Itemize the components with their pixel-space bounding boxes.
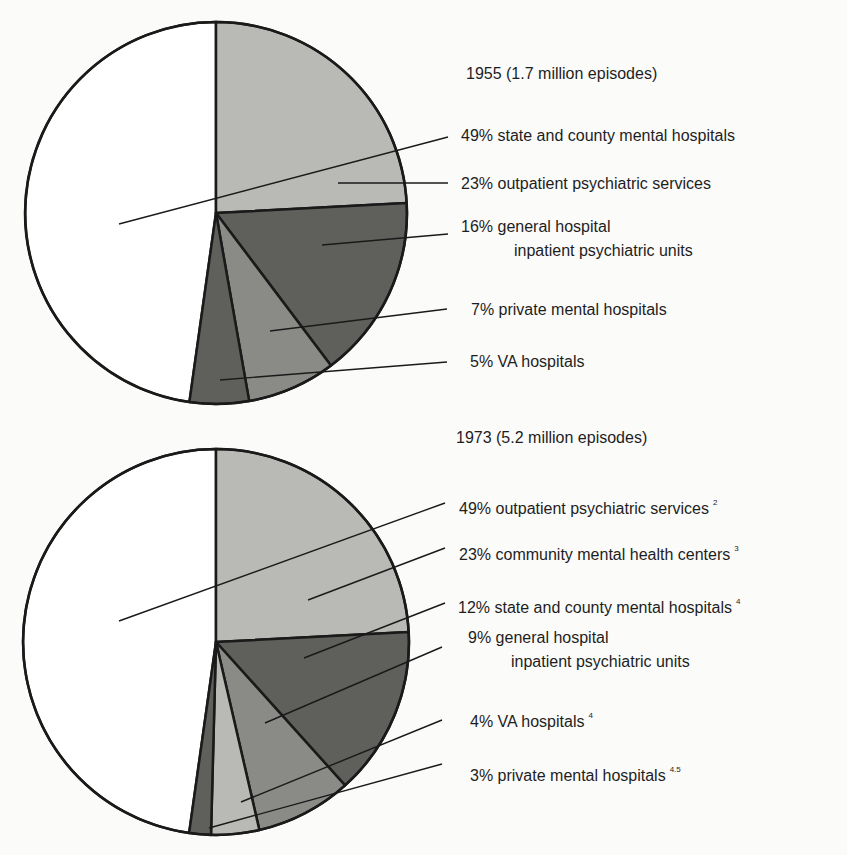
legend-text: general hospital bbox=[496, 629, 609, 646]
slice-1955-outpatient bbox=[216, 22, 407, 213]
legend-pct: 12% bbox=[458, 599, 490, 616]
slice-1955-state-county bbox=[25, 22, 216, 402]
legend-text: outpatient psychiatric services bbox=[497, 175, 710, 192]
legend-text: outpatient psychiatric services bbox=[495, 500, 708, 517]
pie-1955 bbox=[25, 22, 407, 404]
legend-text: community mental health centers bbox=[495, 546, 730, 563]
legend-pct: 49% bbox=[461, 127, 493, 144]
legend-label-1973-cmhc: 23% community mental health centers3 bbox=[459, 539, 739, 565]
pie-1973 bbox=[23, 449, 409, 835]
slice-1973-cmhc bbox=[216, 449, 409, 642]
legend-text: VA hospitals bbox=[498, 713, 585, 730]
legend-label-1955-va: 5% VA hospitals bbox=[470, 352, 584, 372]
footnote-marker: 4.5 bbox=[670, 765, 681, 774]
legend-pct: 23% bbox=[459, 546, 491, 563]
legend-label-1973-private: 3% private mental hospitals4.5 bbox=[470, 760, 681, 786]
legend-pct: 7% bbox=[471, 301, 494, 318]
legend-pct: 16% bbox=[461, 218, 493, 235]
legend-label-1955-state-county: 49% state and county mental hospitals bbox=[461, 126, 735, 146]
legend-pct: 49% bbox=[459, 500, 491, 517]
legend-label-1973-outpatient: 49% outpatient psychiatric services2 bbox=[459, 493, 717, 519]
chart-title-1973: 1973 (5.2 million episodes) bbox=[456, 428, 647, 448]
legend-text: VA hospitals bbox=[498, 353, 585, 370]
legend-text: private mental hospitals bbox=[498, 767, 666, 784]
legend-label-1973-state-county: 12% state and county mental hospitals4 bbox=[458, 592, 740, 618]
legend-pct: 9% bbox=[468, 629, 491, 646]
legend-pct: 5% bbox=[470, 353, 493, 370]
legend-text: private mental hospitals bbox=[499, 301, 667, 318]
slice-1973-outpatient bbox=[23, 449, 216, 833]
legend-text: state and county mental hospitals bbox=[497, 127, 734, 144]
footnote-marker: 4 bbox=[588, 711, 592, 720]
legend-label-1973-general-hospital: 9% general hospital bbox=[468, 628, 609, 648]
legend-pct: 23% bbox=[461, 175, 493, 192]
legend-label-1955-general-hospital-line2: inpatient psychiatric units bbox=[514, 241, 693, 261]
legend-text: general hospital bbox=[497, 218, 610, 235]
legend-label-1955-outpatient: 23% outpatient psychiatric services bbox=[461, 174, 711, 194]
legend-text: state and county mental hospitals bbox=[494, 599, 731, 616]
legend-pct: 4% bbox=[470, 713, 493, 730]
legend-pct: 3% bbox=[470, 767, 493, 784]
legend-label-1973-va: 4% VA hospitals4 bbox=[470, 706, 593, 732]
chart-title-1955: 1955 (1.7 million episodes) bbox=[466, 64, 657, 84]
legend-label-1955-private: 7% private mental hospitals bbox=[471, 300, 667, 320]
legend-label-1973-general-hospital-line2: inpatient psychiatric units bbox=[511, 652, 690, 672]
legend-label-1955-general-hospital: 16% general hospital bbox=[461, 217, 610, 237]
footnote-marker: 2 bbox=[713, 498, 717, 507]
footnote-marker: 4 bbox=[736, 597, 740, 606]
footnote-marker: 3 bbox=[734, 544, 738, 553]
